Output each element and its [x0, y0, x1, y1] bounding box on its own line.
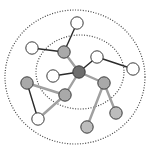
- node-top-white: [71, 17, 83, 29]
- node-middle-gray: [59, 89, 71, 101]
- graph-nodes: [21, 17, 139, 133]
- node-left-gray: [21, 77, 33, 89]
- node-bottom-middle-gray: [81, 121, 93, 133]
- node-upper-right-white: [91, 51, 103, 63]
- node-bottom-right-gray: [110, 107, 122, 119]
- node-upper-left-gray: [58, 46, 70, 58]
- node-left-center-white: [47, 70, 59, 82]
- edge-right-gray-to-bottom-middle-gray: [87, 83, 104, 127]
- network-diagram: [0, 0, 150, 148]
- node-bottom-left-white: [32, 113, 44, 125]
- node-right-gray: [98, 77, 110, 89]
- node-upper-left-white: [26, 42, 38, 54]
- node-right-white: [127, 63, 139, 75]
- node-hub: [73, 66, 85, 78]
